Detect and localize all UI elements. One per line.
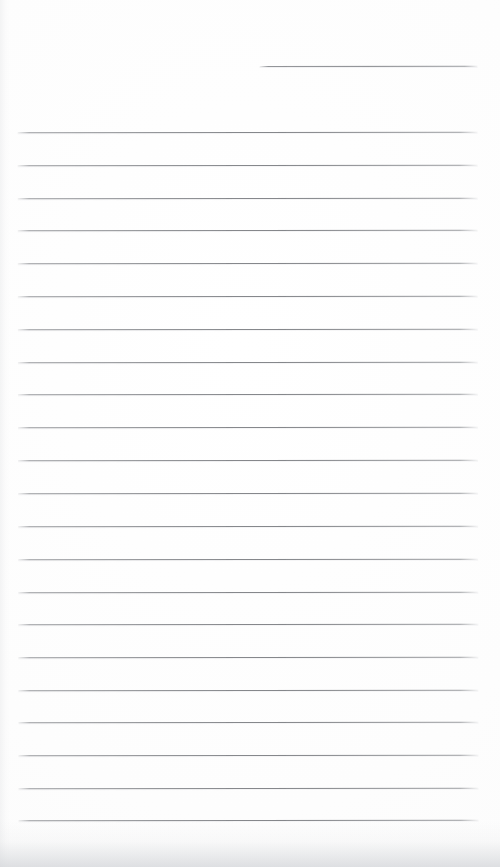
ruled-line[interactable] xyxy=(18,362,478,364)
ruled-line[interactable] xyxy=(18,198,478,200)
ruled-line[interactable] xyxy=(18,132,478,134)
ruled-line[interactable] xyxy=(18,394,478,396)
ruled-line[interactable] xyxy=(18,329,478,331)
ruled-line[interactable] xyxy=(18,624,478,626)
ruled-line-stack xyxy=(0,0,500,867)
ruled-line[interactable] xyxy=(18,788,478,790)
ruled-line[interactable] xyxy=(18,296,478,298)
ruled-line[interactable] xyxy=(18,755,478,757)
ruled-line[interactable] xyxy=(18,657,478,659)
ruled-line[interactable] xyxy=(18,722,478,724)
ruled-line[interactable] xyxy=(18,592,478,594)
ruled-line[interactable] xyxy=(18,165,478,167)
notepad-page xyxy=(0,0,500,867)
ruled-line[interactable] xyxy=(18,230,478,232)
ruled-line[interactable] xyxy=(18,427,478,429)
ruled-line[interactable] xyxy=(18,526,478,528)
ruled-line[interactable] xyxy=(18,263,478,265)
ruled-line[interactable] xyxy=(18,493,478,495)
ruled-line[interactable] xyxy=(18,820,478,822)
ruled-line[interactable] xyxy=(18,460,478,462)
ruled-line[interactable] xyxy=(18,690,478,692)
ruled-line[interactable] xyxy=(18,559,478,561)
date-line-rule[interactable] xyxy=(260,66,478,67)
